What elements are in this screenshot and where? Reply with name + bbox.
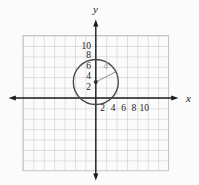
y-tick-label: 4 bbox=[86, 71, 91, 81]
coordinate-grid-svg: 4 10 8 6 4 2 2 4 6 8 10 y x bbox=[0, 0, 199, 185]
x-tick-label: 4 bbox=[111, 103, 116, 113]
x-tick-label: 10 bbox=[140, 103, 150, 113]
radius-length-label: 4 bbox=[103, 60, 108, 71]
x-axis-left-arrowhead-icon bbox=[9, 95, 16, 100]
circle-center-point bbox=[94, 80, 98, 84]
y-axis-bottom-arrowhead-icon bbox=[93, 173, 98, 180]
y-axis-top-arrowhead-icon bbox=[93, 20, 98, 27]
x-tick-label: 8 bbox=[132, 103, 137, 113]
y-tick-label: 6 bbox=[86, 61, 91, 71]
y-axis-label: y bbox=[92, 3, 98, 15]
y-tick-label: 2 bbox=[86, 82, 91, 92]
coordinate-plane-figure: 4 10 8 6 4 2 2 4 6 8 10 y x bbox=[0, 0, 199, 185]
x-axis-label: x bbox=[185, 92, 191, 104]
x-tick-label: 2 bbox=[100, 103, 105, 113]
x-tick-label: 6 bbox=[121, 103, 126, 113]
y-tick-label: 10 bbox=[82, 41, 92, 51]
y-tick-label: 8 bbox=[86, 50, 91, 60]
x-axis-right-arrowhead-icon bbox=[171, 95, 178, 100]
